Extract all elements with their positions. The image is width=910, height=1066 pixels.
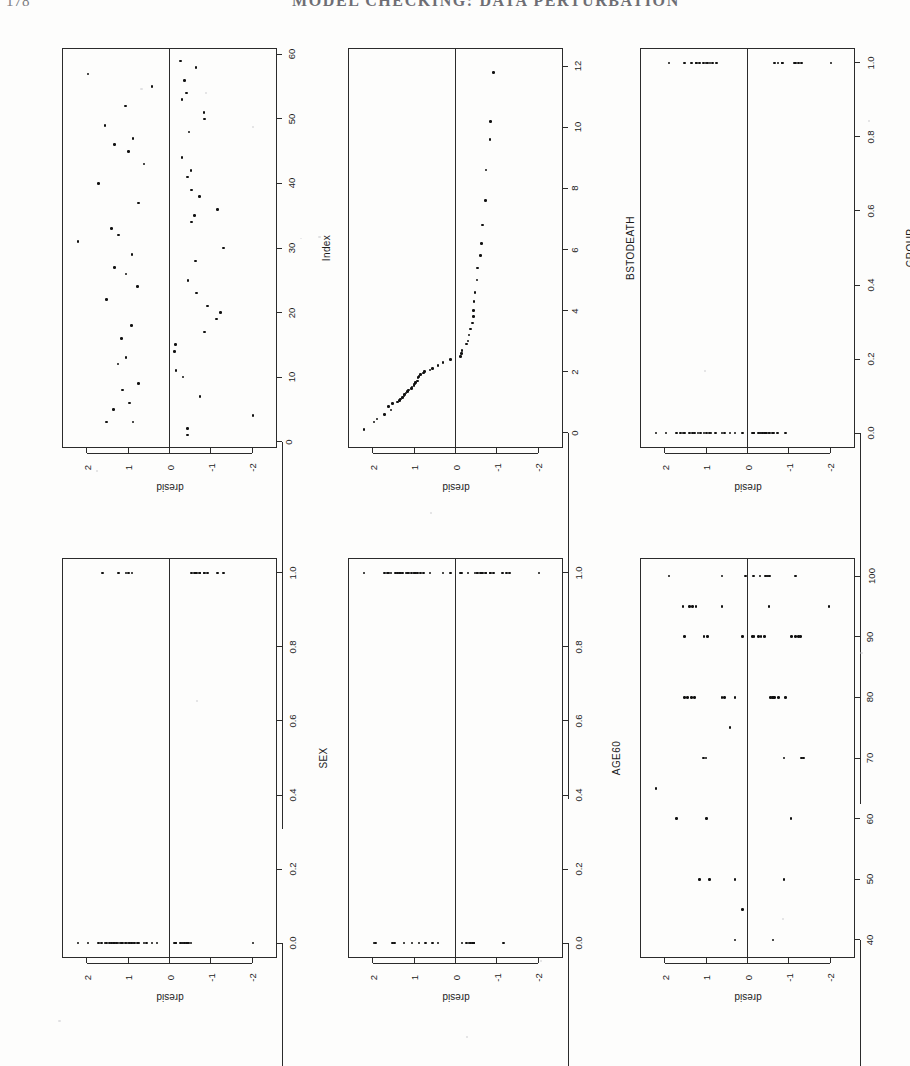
data-point [721,605,724,608]
x-axis-tick-label: 80 [864,692,875,703]
x-axis-tick [277,183,282,184]
x-axis-tick-label: 0.0 [287,937,298,950]
data-point [179,60,182,63]
x-axis-tick-label: 0.2 [865,353,876,366]
data-point [698,62,701,65]
data-point [431,367,434,370]
y-axis-line [373,453,538,454]
x-axis-tick-label: 30 [286,243,297,254]
scan-speckle [58,1020,61,1022]
data-point [773,696,776,699]
y-axis-tick-label: 2 [367,975,378,980]
x-axis-tick-label: 1.0 [865,56,876,69]
x-axis-tick-label: 0.6 [287,714,298,727]
data-point [195,66,198,69]
y-axis-line [665,963,830,964]
data-point [723,696,726,699]
y-axis-title: dresid [734,992,761,1003]
data-point [763,635,766,638]
data-point [706,635,709,638]
data-point [693,696,696,699]
data-point [484,199,487,202]
x-axis-tick [563,188,568,189]
x-axis-tick-label: 0.4 [573,788,584,801]
data-point [781,62,784,65]
y-axis-tick-label: 2 [659,465,670,470]
y-axis-tick-label: -1 [783,973,794,981]
data-point [686,696,689,699]
x-axis-tick-label: 1.0 [287,566,298,579]
data-point [501,572,504,575]
data-point [773,62,776,65]
data-point [741,908,744,911]
x-axis-tick [855,758,860,759]
data-point [449,358,452,361]
y-axis-tick-label: -1 [491,463,502,471]
y-axis-tick-label: -2 [825,973,836,981]
y-axis-title: dresid [442,482,469,493]
x-axis-tick [855,62,860,63]
data-point [741,635,744,638]
data-point [790,635,793,638]
y-axis-title: dresid [734,482,761,493]
x-axis-title: SEX [318,747,329,768]
x-axis-tick [277,646,282,647]
scan-speckle [252,126,254,128]
data-point [215,318,218,321]
y-axis-tick-label: -1 [783,463,794,471]
x-axis-tick-label: 0.4 [865,278,876,291]
x-axis-tick [277,572,282,573]
x-axis-tick [563,795,568,796]
y-axis-tick-label: 1 [123,465,134,470]
data-point [383,413,386,416]
x-axis-tick-label: 40 [864,935,875,946]
x-axis-tick-label: 0.8 [573,640,584,653]
x-axis-tick-label: 6 [569,247,580,252]
y-axis-tick-label: 2 [81,975,92,980]
scan-speckle [205,92,207,94]
scan-speckle [300,238,302,239]
x-axis-title: BSTODEATH [625,216,636,280]
x-axis-tick [277,248,282,249]
x-axis-tick [277,720,282,721]
data-point [777,696,780,699]
x-axis-line [282,442,283,829]
data-point [222,247,225,250]
x-axis-tick-label: 1.0 [573,566,584,579]
y-axis-tick-label: 0 [164,465,175,470]
zero-reference-line [169,558,170,958]
data-point [705,817,708,820]
x-axis-tick-label: 40 [286,178,297,189]
y-axis-line [665,453,830,454]
data-point [828,605,831,608]
data-point [181,98,184,101]
y-axis-tick-label: 0 [742,975,753,980]
x-axis-tick-label: 0.0 [865,427,876,440]
data-point [105,298,108,301]
panel-kps: 405060708090100KPS.PRE.210-1-2dresid [640,558,855,1028]
data-point [474,291,477,294]
x-axis-tick-label: 50 [286,114,297,125]
data-point [387,405,390,408]
data-point [173,350,176,353]
data-point [711,62,714,65]
y-axis-tick-label: -2 [533,973,544,981]
data-point [195,572,198,575]
y-axis-tick-label: -2 [533,463,544,471]
x-axis-tick-label: 0.8 [865,130,876,143]
x-axis-tick [277,795,282,796]
panel-canvas: 0.00.20.40.60.81.0GROUP210-1-2dresid [640,48,855,518]
x-axis-tick-label: 0.4 [287,788,298,801]
data-point [489,120,492,123]
data-point [198,195,201,198]
x-axis-tick [855,576,860,577]
y-axis-tick-label: 0 [450,465,461,470]
data-point [492,71,495,74]
data-point [794,635,797,638]
x-axis-line [860,940,861,1066]
x-axis-tick-label: 0.0 [573,937,584,950]
x-axis-title: Index [321,235,332,261]
panel-bstodeath: 024681012BSTODEATH210-1-2dresid [348,48,563,518]
x-axis-line [568,943,569,1066]
x-axis-tick-label: 50 [864,874,875,885]
